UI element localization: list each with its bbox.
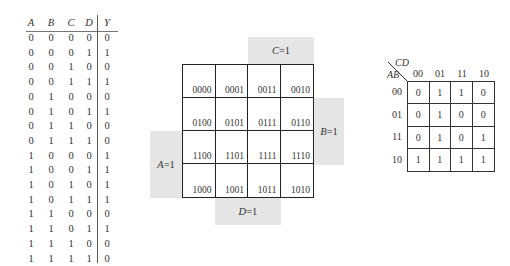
kmap-layout-grid: 0000000100110010010001010111011011001101… [182, 64, 314, 198]
minterm-code: 0101 [225, 118, 244, 128]
cell-d: 0 [82, 31, 96, 45]
cell-c: 0 [64, 105, 78, 119]
kmap-layout-cell: 1001 [216, 164, 249, 197]
cell-c: 0 [64, 149, 78, 163]
cell-d: 0 [82, 178, 96, 192]
kmap-value-cell: 0 [451, 127, 473, 149]
cell-a: 1 [24, 178, 38, 192]
minterm-code: 1011 [258, 185, 277, 195]
header-d: D [82, 16, 96, 30]
cell-y: 1 [100, 163, 114, 177]
cell-c: 1 [64, 75, 78, 89]
header-c: C [64, 16, 78, 30]
cell-a: 0 [24, 134, 38, 148]
cell-y: 1 [100, 75, 114, 89]
kmap-value-cell: 0 [451, 104, 473, 126]
col-header-10: 10 [473, 68, 495, 79]
kmap-value-cell: 0 [408, 82, 430, 104]
region-c-equals-1: C=1 [248, 37, 314, 64]
region-a-eq: =1 [164, 159, 175, 170]
cell-d: 0 [82, 60, 96, 74]
cell-c: 0 [64, 163, 78, 177]
kmap-layout-cell: 1000 [183, 164, 216, 197]
cell-c: 0 [64, 222, 78, 236]
cell-a: 0 [24, 60, 38, 74]
kmap-value-cell: 1 [451, 82, 473, 104]
cell-y: 0 [100, 207, 114, 221]
cell-a: 0 [24, 105, 38, 119]
minterm-code: 0001 [225, 85, 244, 95]
kmap-layout-cell: 0010 [281, 65, 314, 98]
cell-d: 1 [82, 252, 96, 266]
cell-d: 0 [82, 207, 96, 221]
kmap-layout-cell: 0001 [216, 65, 249, 98]
cell-c: 1 [64, 193, 78, 207]
header-y: Y [100, 16, 114, 30]
kmap-value-cell: 1 [430, 82, 452, 104]
cell-b: 0 [44, 178, 58, 192]
minterm-code: 1101 [225, 151, 244, 161]
cell-d: 0 [82, 149, 96, 163]
cell-a: 0 [24, 90, 38, 104]
cell-a: 1 [24, 193, 38, 207]
kmap-value-cell: 1 [473, 127, 495, 149]
cell-b: 1 [44, 119, 58, 133]
cell-y: 1 [100, 193, 114, 207]
cell-c: 1 [64, 119, 78, 133]
row-header-11: 11 [389, 131, 405, 142]
minterm-code: 0110 [291, 118, 310, 128]
kmap-value-cell: 1 [473, 149, 495, 171]
minterm-code: 1111 [259, 151, 277, 161]
kmap-value-cell: 1 [430, 127, 452, 149]
kmap-layout-cell: 0011 [248, 65, 281, 98]
cell-b: 0 [44, 31, 58, 45]
kmap-value-cell: 1 [451, 149, 473, 171]
cell-b: 1 [44, 105, 58, 119]
minterm-code: 1000 [193, 185, 212, 195]
cell-b: 0 [44, 75, 58, 89]
region-d-eq: =1 [246, 206, 257, 217]
cell-b: 0 [44, 193, 58, 207]
cell-c: 1 [64, 134, 78, 148]
cell-b: 0 [44, 46, 58, 60]
cell-b: 1 [44, 134, 58, 148]
kmap-value-cell: 0 [408, 127, 430, 149]
cell-a: 1 [24, 163, 38, 177]
kmap-layout-cell: 1010 [281, 164, 314, 197]
col-header-00: 00 [407, 68, 429, 79]
cell-y: 0 [100, 134, 114, 148]
cell-y: 0 [100, 237, 114, 251]
kmap-value-cell: 1 [408, 149, 430, 171]
cell-d: 0 [82, 237, 96, 251]
col-header-11: 11 [451, 68, 473, 79]
cell-b: 1 [44, 252, 58, 266]
kmap-layout-cell: 1111 [248, 131, 281, 164]
cell-a: 0 [24, 46, 38, 60]
cell-c: 1 [64, 178, 78, 192]
cell-b: 1 [44, 207, 58, 221]
region-c-var: C [272, 45, 279, 56]
cell-d: 1 [82, 193, 96, 207]
cell-a: 0 [24, 31, 38, 45]
row-header-00: 00 [389, 86, 405, 97]
cell-d: 1 [82, 163, 96, 177]
region-c-eq: =1 [279, 45, 290, 56]
region-b-eq: =1 [327, 126, 338, 137]
row-variable-label: AB [385, 69, 401, 80]
region-d-equals-1: D=1 [215, 198, 281, 225]
region-b-equals-1: B=1 [314, 98, 344, 165]
cell-y: 1 [100, 46, 114, 60]
kmap-value-cell: 1 [430, 149, 452, 171]
row-header-10: 10 [389, 154, 405, 165]
column-variable-label: CD [394, 57, 410, 68]
cell-y: 1 [100, 105, 114, 119]
cell-b: 0 [44, 60, 58, 74]
truth-table-output-divider [97, 15, 98, 263]
cell-a: 1 [24, 237, 38, 251]
cell-y: 0 [100, 31, 114, 45]
minterm-code: 0100 [193, 118, 212, 128]
kmap-layout-cell: 0101 [216, 98, 249, 131]
kmap-value-cell: 0 [473, 82, 495, 104]
cell-d: 1 [82, 134, 96, 148]
kmap-layout-cell: 0100 [183, 98, 216, 131]
